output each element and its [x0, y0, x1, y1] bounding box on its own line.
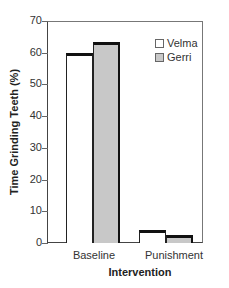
y-tick-mark — [42, 53, 48, 54]
bar-velma-punishment — [139, 230, 166, 243]
y-tick-label: 40 — [0, 110, 42, 121]
y-tick-mark — [42, 84, 48, 85]
y-tick-label: 30 — [0, 142, 42, 153]
y-tick-label: 50 — [0, 78, 42, 89]
legend-label-gerri: Gerri — [167, 51, 191, 63]
bar-gerri-punishment — [166, 235, 193, 243]
legend: Velma Gerri — [155, 36, 198, 64]
legend-item-gerri: Gerri — [155, 50, 198, 64]
legend-label-velma: Velma — [167, 37, 198, 49]
bar-gerri-baseline — [93, 42, 120, 243]
y-tick-mark — [42, 180, 48, 181]
y-tick-mark — [42, 21, 48, 22]
legend-item-velma: Velma — [155, 36, 198, 50]
legend-swatch-velma — [155, 39, 164, 48]
bar-velma-baseline — [66, 53, 93, 243]
y-tick-label: 20 — [0, 174, 42, 185]
x-tick-punishment: Punishment — [134, 249, 214, 261]
y-tick-mark — [42, 116, 48, 117]
y-tick-label: 10 — [0, 205, 42, 216]
y-tick-mark — [42, 243, 48, 244]
x-tick-baseline: Baseline — [54, 249, 134, 261]
legend-swatch-gerri — [155, 53, 164, 62]
y-tick-mark — [42, 211, 48, 212]
y-tick-label: 60 — [0, 47, 42, 58]
y-tick-label: 70 — [0, 15, 42, 26]
x-axis-label: Intervention — [80, 266, 200, 278]
y-tick-mark — [42, 148, 48, 149]
y-tick-label: 0 — [0, 237, 42, 248]
